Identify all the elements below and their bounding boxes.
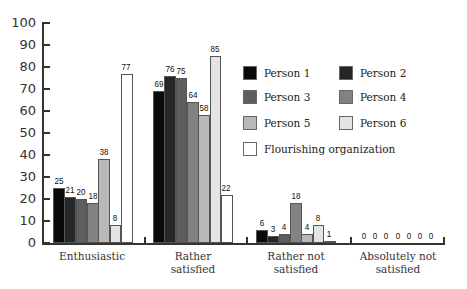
legend-swatch xyxy=(339,66,353,80)
bar-value-label: 0 xyxy=(423,231,440,241)
bar xyxy=(324,241,336,243)
x-axis xyxy=(42,243,445,245)
legend-label: Flourishing organization xyxy=(264,143,395,155)
bar-value-label: 75 xyxy=(173,66,190,76)
category-label-line: Absolutely not xyxy=(348,250,448,263)
bar xyxy=(301,234,313,243)
legend-label: Person 3 xyxy=(264,91,310,103)
y-tick-label: 80 xyxy=(8,60,36,74)
legend-item: Flourishing organization xyxy=(243,142,395,156)
bar xyxy=(279,234,291,243)
x-tick xyxy=(144,237,146,244)
legend-item: Person 3 xyxy=(243,90,310,104)
bar xyxy=(221,195,233,243)
category-label: Rathersatisfied xyxy=(143,250,243,276)
category-label-line: Rather not xyxy=(246,250,346,263)
category-label: Rather notsatisfied xyxy=(246,250,346,276)
legend-swatch xyxy=(243,116,257,130)
bar-value-label: 85 xyxy=(207,44,224,54)
bar xyxy=(121,74,133,243)
legend-item: Person 1 xyxy=(243,66,310,80)
category-label-line: satisfied xyxy=(348,263,448,276)
bar-value-label: 64 xyxy=(184,90,201,100)
bar xyxy=(153,91,165,243)
legend-item: Person 4 xyxy=(339,90,406,104)
bar-value-label: 8 xyxy=(310,213,327,223)
x-tick xyxy=(443,237,445,244)
y-tick xyxy=(42,220,50,222)
y-tick-label: 10 xyxy=(8,214,36,228)
y-tick xyxy=(42,88,50,90)
y-tick xyxy=(42,66,50,68)
legend-swatch xyxy=(339,116,353,130)
y-tick-label: 30 xyxy=(8,170,36,184)
legend-label: Person 5 xyxy=(264,117,310,129)
y-tick xyxy=(42,176,50,178)
bar xyxy=(187,102,199,243)
x-tick xyxy=(246,237,248,244)
bar-value-label: 1 xyxy=(321,229,338,239)
bar xyxy=(98,159,110,243)
bar xyxy=(210,56,222,243)
legend-swatch xyxy=(243,66,257,80)
legend-label: Person 2 xyxy=(360,67,406,79)
category-label-line: satisfied xyxy=(246,263,346,276)
bar xyxy=(176,78,188,243)
bar xyxy=(164,76,176,243)
y-tick-label: 90 xyxy=(8,38,36,52)
bar-value-label: 38 xyxy=(95,147,112,157)
legend-label: Person 6 xyxy=(360,117,406,129)
bar xyxy=(87,203,99,243)
y-tick xyxy=(42,22,50,24)
y-tick-label: 0 xyxy=(8,236,36,250)
bar xyxy=(267,236,279,243)
legend-swatch xyxy=(243,90,257,104)
y-tick xyxy=(42,242,50,244)
category-label-line: Enthusiastic xyxy=(42,250,142,263)
legend-item: Person 6 xyxy=(339,116,406,130)
y-tick-label: 100 xyxy=(8,16,36,30)
bar-value-label: 22 xyxy=(218,183,235,193)
category-label-line: satisfied xyxy=(143,263,243,276)
y-tick-label: 20 xyxy=(8,192,36,206)
y-tick xyxy=(42,110,50,112)
y-tick-label: 60 xyxy=(8,104,36,118)
category-label: Enthusiastic xyxy=(42,250,142,263)
legend-label: Person 1 xyxy=(264,67,310,79)
legend-item: Person 5 xyxy=(243,116,310,130)
legend-swatch xyxy=(243,142,257,156)
category-label-line: Rather xyxy=(143,250,243,263)
y-tick xyxy=(42,154,50,156)
bar xyxy=(64,197,76,243)
grouped-bar-chart: 0102030405060708090100 25212018388776976… xyxy=(0,0,467,289)
bar xyxy=(198,115,210,243)
bar xyxy=(76,199,88,243)
category-label: Absolutely notsatisfied xyxy=(348,250,448,276)
y-tick xyxy=(42,198,50,200)
y-tick-label: 40 xyxy=(8,148,36,162)
bar xyxy=(110,225,122,243)
y-tick-label: 70 xyxy=(8,82,36,96)
y-tick xyxy=(42,44,50,46)
bar xyxy=(53,188,65,243)
legend-swatch xyxy=(339,90,353,104)
legend-item: Person 2 xyxy=(339,66,406,80)
y-tick xyxy=(42,132,50,134)
bar-value-label: 77 xyxy=(118,62,135,72)
y-tick-label: 50 xyxy=(8,126,36,140)
x-tick xyxy=(350,237,352,244)
legend-label: Person 4 xyxy=(360,91,406,103)
bar-value-label: 18 xyxy=(287,191,304,201)
